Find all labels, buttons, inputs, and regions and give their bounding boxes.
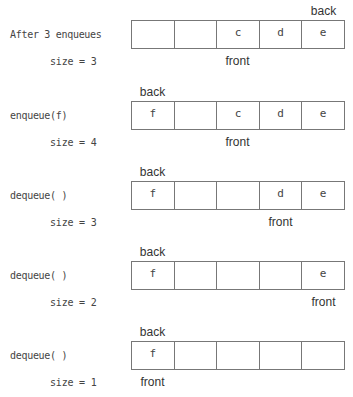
array-cell: d	[260, 21, 303, 48]
array-cell	[217, 262, 260, 289]
array-cell	[175, 21, 218, 48]
operation-label: dequeue( )	[10, 270, 67, 281]
array-cell: e	[302, 182, 344, 209]
array-cell: f	[132, 262, 175, 289]
array-cell	[260, 262, 303, 289]
array-cell: c	[217, 102, 260, 129]
operation-label: enqueue(f)	[10, 110, 67, 121]
size-label: size = 1	[50, 377, 97, 388]
queue-state-row: enqueue(f) size = 4 back f c d e front	[0, 81, 353, 161]
operation-label: After 3 enqueues	[10, 29, 102, 40]
array-cell	[217, 342, 260, 369]
array-cell: d	[260, 182, 303, 209]
queue-state-row: dequeue( ) size = 3 back f d e front	[0, 161, 353, 241]
queue-array: f d e	[131, 181, 345, 210]
queue-state-row: dequeue( ) size = 1 back f front	[0, 321, 353, 397]
array-cell: e	[302, 21, 344, 48]
queue-array: f	[131, 341, 345, 370]
back-pointer-label: back	[131, 85, 174, 99]
front-pointer-label: front	[302, 295, 345, 309]
array-cell: e	[302, 102, 344, 129]
array-cell: c	[217, 21, 260, 48]
operation-label: dequeue( )	[10, 350, 67, 361]
front-pointer-label: front	[216, 135, 259, 149]
back-pointer-label: back	[131, 325, 174, 339]
array-cell: f	[132, 342, 175, 369]
front-pointer-label: front	[216, 54, 259, 68]
size-label: size = 3	[50, 56, 97, 67]
queue-state-row: After 3 enqueues size = 3 back c d e fro…	[0, 0, 353, 80]
queue-array: f c d e	[131, 101, 345, 130]
back-pointer-label: back	[131, 245, 174, 259]
array-cell	[175, 102, 218, 129]
front-pointer-label: front	[259, 215, 302, 229]
back-pointer-label: back	[302, 4, 345, 18]
array-cell	[175, 182, 218, 209]
array-cell: e	[302, 262, 344, 289]
array-cell	[175, 262, 218, 289]
array-cell: d	[260, 102, 303, 129]
size-label: size = 4	[50, 137, 97, 148]
size-label: size = 3	[50, 217, 97, 228]
back-pointer-label: back	[131, 165, 174, 179]
array-cell	[302, 342, 344, 369]
size-label: size = 2	[50, 297, 97, 308]
front-pointer-label: front	[131, 375, 174, 389]
queue-array: f e	[131, 261, 345, 290]
array-cell	[217, 182, 260, 209]
array-cell: f	[132, 102, 175, 129]
array-cell	[132, 21, 175, 48]
queue-state-row: dequeue( ) size = 2 back f e front	[0, 241, 353, 321]
array-cell	[260, 342, 303, 369]
array-cell	[175, 342, 218, 369]
queue-array: c d e	[131, 20, 345, 49]
operation-label: dequeue( )	[10, 190, 67, 201]
array-cell: f	[132, 182, 175, 209]
